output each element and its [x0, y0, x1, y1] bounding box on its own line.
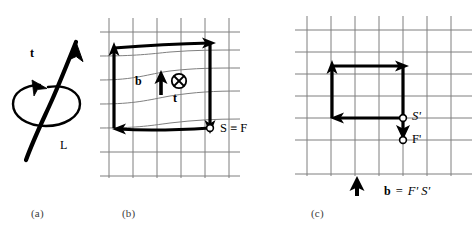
- legend-burgers-arrow: [350, 176, 365, 196]
- start-finish-label-b: S ≡ F: [220, 122, 247, 135]
- panel-a: t L: [0, 0, 105, 200]
- panel-b: b t S ≡ F: [100, 0, 240, 200]
- finish-node-f-prime: [400, 137, 407, 144]
- burgers-vector-equation-c: b=F′ S′: [384, 181, 430, 199]
- equation-fs-prime: F′ S′: [403, 184, 430, 198]
- burgers-vector-label-b: b: [135, 75, 142, 87]
- panel-b-grid: [100, 18, 240, 178]
- finish-label-f-prime: F': [412, 133, 421, 146]
- start-finish-node: [207, 125, 214, 132]
- equation-b-symbol: b: [384, 184, 391, 198]
- panel-b-caption: (b): [122, 207, 135, 219]
- panel-c-caption: (c): [311, 207, 324, 219]
- panel-b-drawing: [100, 0, 240, 200]
- start-label-s-prime: S': [412, 110, 421, 123]
- circulation-loop: [13, 85, 80, 126]
- panel-c-grid: [295, 16, 472, 176]
- tangent-vector-label-a: t: [30, 47, 34, 59]
- panel-a-caption: (a): [31, 207, 44, 219]
- tangent-into-page-icon: [172, 74, 186, 88]
- panel-c: S' F' b=F′ S′: [295, 0, 472, 200]
- tangent-vector-label-b: t: [173, 92, 177, 104]
- equation-equals: =: [391, 184, 403, 198]
- panel-a-drawing: [0, 0, 105, 200]
- dislocation-line-label-a: L: [60, 139, 67, 151]
- panel-c-drawing: [295, 0, 472, 200]
- start-node-s-prime: [400, 115, 407, 122]
- figure-root: t L (a): [0, 0, 472, 241]
- loop-arrowhead: [32, 80, 47, 96]
